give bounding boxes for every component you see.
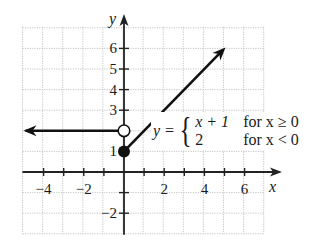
y-axis-label: y bbox=[107, 10, 117, 28]
y-tick-label: −2 bbox=[101, 205, 117, 221]
brace-icon: { bbox=[179, 112, 191, 148]
open-circle-marker bbox=[118, 125, 130, 137]
x-tick-label: 4 bbox=[201, 181, 209, 197]
y-tick-label: 4 bbox=[110, 82, 118, 98]
y-tick-label: 1 bbox=[110, 143, 118, 159]
case-1-expr: x + 1 bbox=[195, 113, 243, 131]
x-tick-label: 2 bbox=[160, 181, 168, 197]
equation-label: y = { x + 1 for x ≥ 0 2 for x < 0 bbox=[151, 112, 301, 150]
case-2-expr: 2 bbox=[195, 131, 243, 149]
y-tick-label: 6 bbox=[110, 40, 118, 56]
case-2-condition: for x < 0 bbox=[243, 131, 299, 149]
x-tick-label: 6 bbox=[241, 181, 249, 197]
y-tick-label: 5 bbox=[110, 61, 118, 77]
equation-lhs: y = bbox=[153, 122, 175, 140]
x-tick-label: −2 bbox=[76, 181, 92, 197]
equation-cases: x + 1 for x ≥ 0 2 for x < 0 bbox=[195, 113, 299, 149]
x-tick-label: −4 bbox=[36, 181, 52, 197]
y-tick-label: 3 bbox=[110, 102, 118, 118]
x-axis-label: x bbox=[268, 178, 276, 195]
filled-circle-marker bbox=[118, 145, 130, 157]
case-1-condition: for x ≥ 0 bbox=[243, 113, 299, 131]
